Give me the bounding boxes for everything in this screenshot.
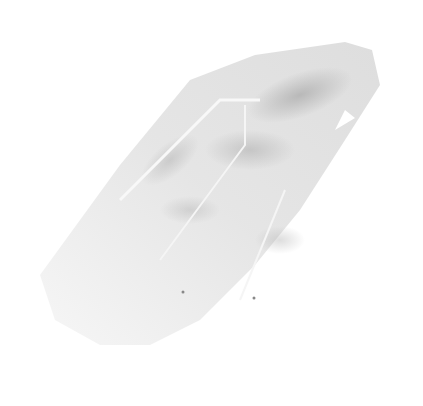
inclusion <box>182 291 185 294</box>
quartz-crystal <box>0 0 423 406</box>
photo-frame <box>0 0 423 406</box>
shadow-right <box>255 226 305 254</box>
shadow-mid <box>205 130 295 170</box>
inclusion <box>253 297 256 300</box>
